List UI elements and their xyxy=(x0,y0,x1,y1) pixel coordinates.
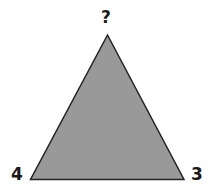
vertex-label-top: ? xyxy=(101,9,111,26)
vertex-label-bottom-left: 4 xyxy=(11,166,23,183)
triangle-shape xyxy=(31,35,185,180)
vertex-label-bottom-right: 3 xyxy=(191,166,203,183)
triangle-diagram xyxy=(0,0,216,190)
